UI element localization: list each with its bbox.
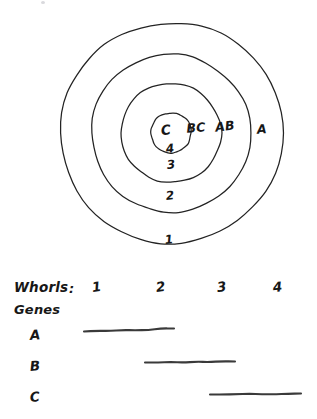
diagram-canvas	[0, 0, 317, 419]
gene-row-label-b: B	[29, 359, 41, 373]
figure-root: C BC AB A 1 2 3 4 Whorls : 1 2 3 4 Genes…	[0, 0, 317, 419]
whorls-header-label: Whorls	[14, 281, 68, 295]
whorls-axis-number-1: 1	[91, 280, 102, 295]
whorl-rings-group	[60, 24, 283, 245]
whorl-ring-number-1: 1	[164, 233, 174, 246]
whorls-axis-number-2: 2	[155, 280, 166, 295]
gene-domain-label-a: A	[257, 123, 268, 136]
gene-bar-b	[145, 361, 235, 362]
whorl-ring-number-2: 2	[165, 189, 175, 202]
gene-domain-label-bc: BC	[186, 121, 206, 135]
gene-bar-c	[210, 394, 301, 395]
gene-domain-label-c: C	[160, 123, 172, 138]
gene-row-label-a: A	[29, 328, 41, 342]
whorl-ring-number-4: 4	[165, 142, 175, 155]
gene-expression-bars-group	[84, 328, 301, 394]
whorls-axis-number-4: 4	[272, 280, 283, 294]
gene-row-label-c: C	[29, 390, 40, 404]
genes-header-label: Genes	[14, 303, 60, 316]
gene-bar-a	[84, 328, 174, 331]
whorl-ring-1	[60, 24, 283, 245]
gene-domain-label-ab: AB	[214, 119, 235, 134]
whorls-axis-number-3: 3	[216, 280, 227, 295]
whorl-ring-number-3: 3	[166, 158, 176, 171]
whorls-colon: :	[69, 282, 74, 295]
